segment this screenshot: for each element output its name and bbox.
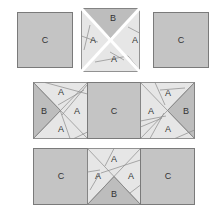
label-a-right: A — [128, 171, 134, 181]
label-a-bottom: A — [58, 124, 64, 134]
label-a-bottom: A — [111, 54, 117, 64]
label-c: C — [178, 35, 185, 45]
label-a-right: A — [132, 35, 138, 45]
label-a-top: A — [58, 87, 64, 97]
label-b: B — [41, 106, 47, 116]
label-c: C — [42, 35, 49, 45]
quilt-diagram: C B A A A C — [0, 0, 212, 210]
square-c-top-left: C — [18, 13, 73, 68]
square-c-bottom-right: C — [141, 149, 195, 205]
square-c-bottom-left: C — [34, 149, 88, 205]
label-a-right: A — [74, 106, 80, 116]
label-a-top: A — [165, 88, 171, 98]
label-b: B — [110, 13, 116, 23]
hourglass-unit-bottom: A A A B — [88, 149, 141, 205]
label-c: C — [165, 171, 172, 181]
label-a-left: A — [148, 106, 154, 116]
label-a-bottom: A — [165, 124, 171, 134]
label-c: C — [58, 171, 65, 181]
label-b: B — [183, 106, 189, 116]
label-c: C — [111, 106, 118, 116]
label-a-top: A — [111, 154, 117, 164]
label-a-left: A — [90, 35, 96, 45]
label-b: B — [111, 189, 117, 199]
square-c-top-right: C — [154, 13, 209, 68]
label-a-left: A — [95, 171, 101, 181]
square-c-center: C — [88, 83, 141, 139]
row-2: A B A A C A A B A — [34, 83, 195, 139]
row-3: C A A A B C — [34, 149, 195, 205]
row-1: C B A A A C — [18, 7, 209, 73]
hourglass-unit-right: A A B A — [141, 83, 195, 139]
hourglass-unit-separated: B A A A — [80, 7, 141, 73]
hourglass-unit-left: A B A A — [34, 83, 88, 139]
